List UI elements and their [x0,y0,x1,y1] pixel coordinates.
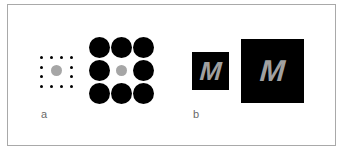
surround-circle [111,37,132,58]
letter-m: M [259,56,286,86]
small-black-square: M [192,52,229,90]
surround-circle [133,83,154,104]
letter-m: M [199,58,222,84]
surround-circle [133,60,154,81]
gray-target-circle [116,65,127,76]
surround-circle [111,83,132,104]
surround-dot [50,85,53,88]
surround-dot [50,56,53,59]
surround-dot [70,56,73,59]
surround-dot [70,66,73,69]
surround-dot [40,85,43,88]
surround-dot [70,85,73,88]
surround-circle [89,60,110,81]
surround-dot [70,75,73,78]
surround-circle [89,37,110,58]
surround-dot [40,75,43,78]
large-black-square: M [241,39,304,103]
panel-label-b: b [193,108,199,120]
surround-dot [40,56,43,59]
surround-dot [60,85,63,88]
surround-dot [40,66,43,69]
surround-dot [60,56,63,59]
panel-label-a: a [41,108,47,120]
surround-circle [133,37,154,58]
gray-target-circle [51,65,62,76]
surround-circle [89,83,110,104]
